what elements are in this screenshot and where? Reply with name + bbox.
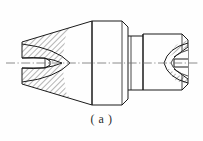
figure-container: ( a ) [0, 0, 203, 141]
figure-caption: ( a ) [0, 112, 203, 127]
